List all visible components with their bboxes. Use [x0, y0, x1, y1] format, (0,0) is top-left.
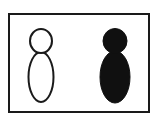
figure-filled	[100, 29, 130, 104]
image-canvas: Two stylized human-like figures in a bor…	[0, 0, 158, 124]
figure-outline-head	[30, 29, 52, 53]
figure-filled-head	[103, 29, 127, 54]
figure-filled-body	[100, 51, 130, 103]
figure-outline	[29, 29, 54, 102]
figure-outline-body	[29, 52, 54, 102]
figure-illustration	[0, 0, 158, 124]
